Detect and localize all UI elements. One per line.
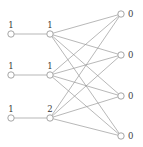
graph-canvas: 1111120000 [0,0,143,147]
graph-node-mid-2[interactable] [47,72,53,78]
node-label-in-3: 1 [8,104,13,114]
graph-node-in-3[interactable] [8,115,14,121]
node-label-out-2: 0 [128,50,133,60]
node-label-in-2: 1 [8,61,13,71]
graph-node-in-2[interactable] [8,72,14,78]
graph-node-in-1[interactable] [8,31,14,37]
graph-node-mid-1[interactable] [47,31,53,37]
graph-edge [53,76,118,95]
node-label-mid-3: 2 [47,104,52,114]
graph-edge [53,15,118,33]
node-label-out-3: 0 [128,91,133,101]
node-label-out-4: 0 [128,131,133,141]
graph-node-out-1[interactable] [118,11,124,17]
node-label-mid-1: 1 [47,20,52,30]
graph-node-out-3[interactable] [118,93,124,99]
graph-node-out-2[interactable] [118,52,124,58]
graph-figure: 1111120000 [0,0,143,147]
node-label-in-1: 1 [8,20,13,30]
graph-node-mid-3[interactable] [47,115,53,121]
graph-edge [53,56,118,74]
node-label-out-1: 0 [128,9,133,19]
node-label-mid-2: 1 [47,61,52,71]
graph-edge [53,119,118,135]
edges-group [14,15,119,135]
graph-node-out-4[interactable] [118,133,124,139]
